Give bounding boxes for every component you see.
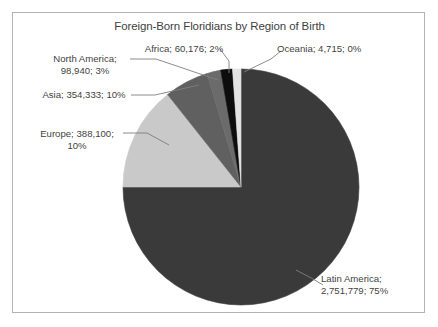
- pie-label-europe-line2: 10%: [17, 140, 137, 152]
- pie-label-africa-text: Africa; 60,176; 2%: [131, 43, 237, 55]
- pie-slices: [123, 69, 359, 305]
- pie-label-africa: Africa; 60,176; 2%: [131, 43, 237, 55]
- pie-label-europe-line1: Europe; 388,100;: [17, 128, 137, 140]
- pie-label-north-america-line1: North America;: [29, 53, 141, 65]
- pie-label-oceania-text: Oceania; 4,715; 0%: [277, 43, 407, 55]
- pie-label-north-america: North America; 98,940; 3%: [29, 53, 141, 76]
- pie-label-latin-america-line2: 2,751,779; 75%: [321, 285, 431, 297]
- pie-label-europe: Europe; 388,100; 10%: [17, 128, 137, 151]
- pie-label-latin-america: Latin America; 2,751,779; 75%: [321, 273, 431, 296]
- pie-label-asia-text: Asia; 354,333; 10%: [19, 89, 149, 101]
- leader-line-oceania: [244, 51, 281, 72]
- chart-frame: Foreign-Born Floridians by Region of Bir…: [12, 12, 425, 313]
- pie-label-asia: Asia; 354,333; 10%: [19, 89, 149, 101]
- pie-label-oceania: Oceania; 4,715; 0%: [277, 43, 407, 55]
- pie-label-north-america-line2: 98,940; 3%: [29, 65, 141, 77]
- pie-label-latin-america-line1: Latin America;: [321, 273, 431, 285]
